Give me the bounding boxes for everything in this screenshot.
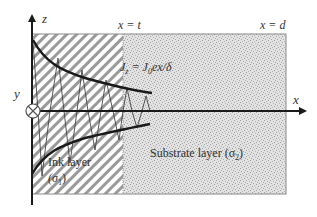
boundary-label-d: x = d (259, 18, 286, 32)
ink-layer-label: Ink layer (48, 155, 91, 169)
ink-layer-sigma: (σ1) (48, 171, 66, 187)
y-axis-label: y (12, 86, 20, 101)
substrate-layer-region (123, 34, 286, 194)
boundary-label-t: x = t (117, 18, 141, 32)
z-axis-label: z (41, 11, 47, 26)
substrate-layer-label: Substrate layer (σ2) (150, 146, 243, 162)
x-axis-label: x (292, 92, 299, 107)
skin-depth-diagram: z x y x = t x = d Jz = J0ex/δ Ink layer … (0, 0, 317, 217)
current-density-equation: Jz = J0ex/δ (120, 60, 172, 76)
y-axis-into-page-icon (26, 104, 40, 118)
